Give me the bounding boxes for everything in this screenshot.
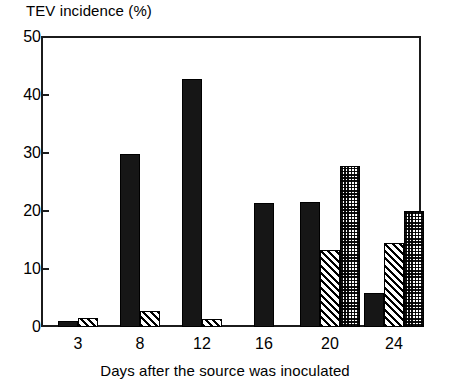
chart-figure: TEV incidence (%) 50 40 30 20 10 0 3 8 1… [0, 0, 450, 390]
y-tick-mark-40 [41, 94, 49, 96]
y-tick-label-40: 40 [7, 87, 41, 103]
hatched-bar-24 [384, 243, 404, 327]
x-tick-label-8: 8 [136, 336, 145, 352]
hatched-bar-3 [78, 318, 98, 327]
y-tick-mark-20 [41, 210, 49, 212]
black-bar-16 [254, 203, 274, 327]
x-tick-label-3: 3 [74, 336, 83, 352]
black-bar-3 [58, 321, 78, 327]
y-axis-title: TEV incidence (%) [26, 2, 152, 19]
x-tick-label-12: 12 [193, 336, 211, 352]
y-tick-label-20: 20 [7, 203, 41, 219]
y-tick-label-50: 50 [7, 29, 41, 45]
y-axis: 50 40 30 20 10 0 [0, 0, 41, 390]
y-tick-label-10: 10 [7, 261, 41, 277]
black-bar-20 [300, 202, 320, 327]
black-bar-24 [364, 293, 384, 327]
y-tick-mark-30 [41, 152, 49, 154]
black-bar-8 [120, 154, 140, 327]
x-axis-title: Days after the source was inoculated [0, 362, 450, 379]
x-tick-label-24: 24 [385, 336, 403, 352]
x-tick-label-20: 20 [321, 336, 339, 352]
stippled-bar-24 [404, 211, 424, 327]
plot-area [41, 36, 421, 327]
hatched-bar-12 [202, 319, 222, 327]
x-tick-label-16: 16 [255, 336, 273, 352]
hatched-bar-20 [320, 250, 340, 327]
stippled-bar-20 [340, 166, 360, 327]
black-bar-12 [182, 79, 202, 327]
y-tick-label-30: 30 [7, 145, 41, 161]
y-tick-label-0: 0 [7, 319, 41, 335]
y-tick-mark-10 [41, 268, 49, 270]
hatched-bar-8 [140, 311, 160, 327]
